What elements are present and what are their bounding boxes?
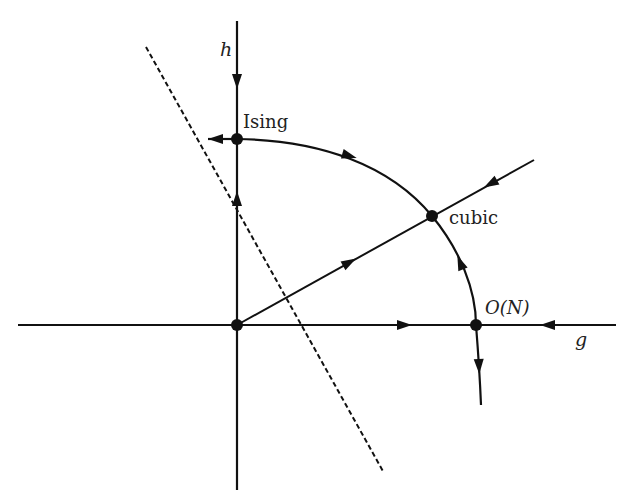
flow-arrow-icon (232, 74, 242, 89)
cubic-label: cubic (449, 207, 498, 228)
ising-label: Ising (243, 111, 288, 132)
ising-fixed-point (231, 133, 243, 145)
rg-flow-diagram: h g Ising cubic O(N) (0, 0, 630, 504)
flow-arrow-icon (397, 320, 412, 330)
flow-arrow-icon (341, 254, 359, 270)
fixed-point-arc (208, 134, 484, 405)
on-label: O(N) (485, 297, 530, 318)
h-axis-label: h (220, 38, 232, 60)
flow-arrow-icon (474, 359, 485, 374)
g-axis-label: g (575, 328, 587, 350)
flow-arrow-icon (208, 134, 223, 144)
cubic-fixed-point (426, 210, 438, 222)
flow-arrow-icon (453, 254, 468, 272)
gaussian-fixed-point (231, 319, 243, 331)
flow-arrow-icon (540, 320, 555, 330)
on-fixed-point (470, 319, 482, 331)
g-axis (18, 320, 616, 330)
h-axis (232, 21, 242, 490)
flow-arrow-icon (481, 176, 499, 192)
